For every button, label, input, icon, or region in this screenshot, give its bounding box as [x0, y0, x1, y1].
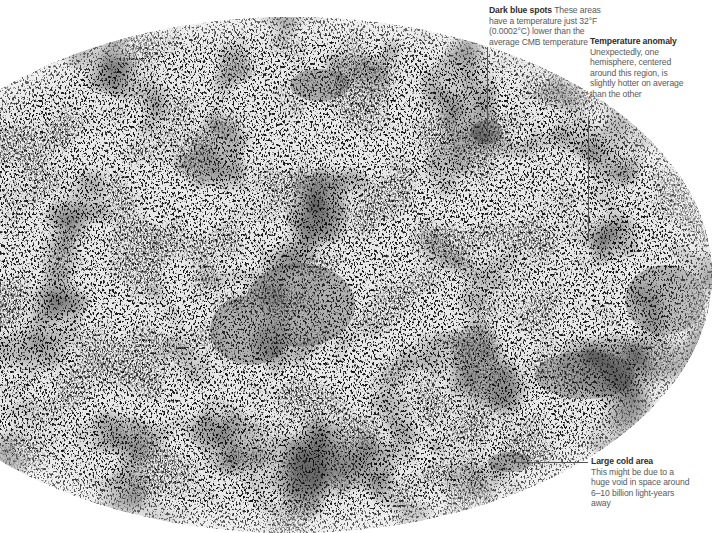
callout-title: Large cold area: [591, 456, 691, 467]
callout-title: Temperature anomaly: [590, 36, 692, 47]
leader-line-dark-blue-spots: [487, 47, 488, 133]
callout-temperature-anomaly: Temperature anomaly Unexpectedly, one he…: [590, 36, 692, 100]
callout-title: Dark blue spots: [489, 5, 552, 15]
leader-line-temperature-anomaly: [588, 116, 589, 241]
callout-body: This might be due to a huge void in spac…: [591, 467, 689, 509]
callout-body: Unexpectedly, one hemisphere, centered a…: [590, 47, 683, 99]
leader-line-large-cold-area: [512, 462, 588, 463]
callout-large-cold-area: Large cold area This might be due to a h…: [591, 456, 691, 509]
